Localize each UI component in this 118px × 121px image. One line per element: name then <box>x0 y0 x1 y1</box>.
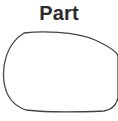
mirror-outline-path <box>4 32 118 112</box>
mirror-glass-outline-icon <box>0 0 118 121</box>
